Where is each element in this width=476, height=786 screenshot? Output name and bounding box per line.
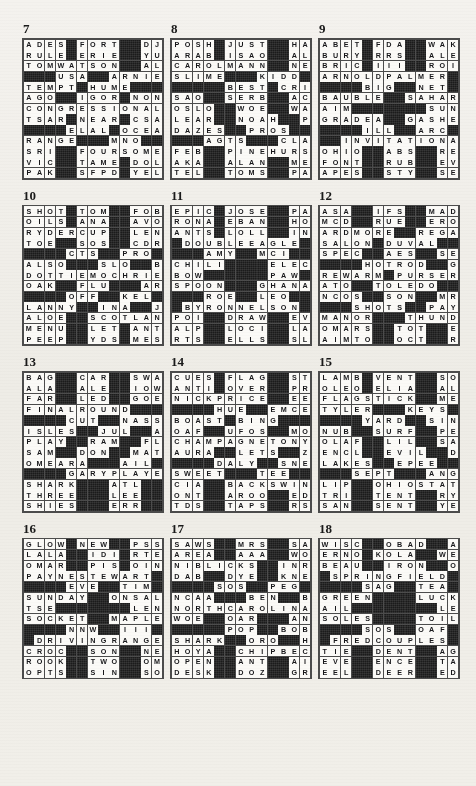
letter-cell: C	[246, 394, 256, 404]
letter-cell: M	[141, 582, 151, 592]
letter-cell: G	[268, 238, 278, 248]
letter-cell: D	[130, 157, 140, 167]
block-square	[426, 157, 436, 167]
letter-cell: O	[362, 334, 372, 344]
block-square	[362, 281, 372, 291]
letter-cell: O	[34, 61, 44, 71]
letter-cell: P	[182, 206, 192, 216]
letter-cell: E	[56, 313, 66, 323]
block-square	[225, 72, 235, 82]
block-square	[214, 334, 224, 344]
puzzle-9: 9ABETFDAWAKBURYRRSALEBRICIIIROIARNOLDPAL…	[318, 22, 454, 180]
letter-cell: V	[330, 657, 340, 667]
letter-cell: O	[246, 104, 256, 114]
letter-cell: N	[45, 104, 55, 114]
letter-cell: E	[362, 114, 372, 124]
letter-cell: S	[330, 206, 340, 216]
letter-cell: E	[352, 405, 362, 415]
letter-cell: A	[34, 281, 44, 291]
letter-cell: E	[289, 313, 299, 323]
letter-cell: E	[246, 238, 256, 248]
letter-cell: D	[289, 72, 299, 82]
letter-cell: P	[246, 625, 256, 635]
letter-cell: H	[330, 146, 340, 156]
letter-cell: T	[384, 136, 394, 146]
block-square	[77, 136, 87, 146]
block-square	[373, 405, 383, 415]
letter-cell: M	[152, 657, 162, 667]
letter-cell: B	[257, 93, 267, 103]
block-square	[172, 82, 182, 92]
letter-cell: C	[109, 270, 119, 280]
letter-cell: Z	[300, 447, 310, 457]
letter-cell: R	[257, 125, 267, 135]
letter-cell: S	[416, 480, 426, 490]
letter-cell: O	[236, 228, 246, 238]
block-square	[109, 603, 119, 613]
letter-cell: S	[320, 249, 330, 259]
letter-cell: A	[437, 480, 447, 490]
block-square	[394, 93, 404, 103]
letter-cell: L	[172, 114, 182, 124]
letter-cell: C	[24, 646, 34, 656]
letter-cell: Y	[236, 571, 246, 581]
letter-cell: H	[268, 281, 278, 291]
crossword-grid: ASAIFSMADMCDRUEEROARDMOREREGASALONDUVALS…	[318, 205, 460, 347]
block-square	[214, 93, 224, 103]
letter-cell: E	[66, 125, 76, 135]
block-square	[426, 334, 436, 344]
letter-cell: A	[56, 458, 66, 468]
letter-cell: T	[437, 82, 447, 92]
letter-cell: S	[320, 614, 330, 624]
block-square	[66, 206, 76, 216]
block-square	[352, 603, 362, 613]
block-square	[130, 61, 140, 71]
letter-cell: P	[98, 168, 108, 178]
block-square	[289, 415, 299, 425]
block-square	[268, 217, 278, 227]
block-square	[45, 582, 55, 592]
letter-cell: I	[98, 667, 108, 677]
block-square	[204, 93, 214, 103]
letter-cell: D	[437, 571, 447, 581]
letter-cell: U	[98, 405, 108, 415]
block-square	[278, 501, 288, 511]
letter-cell: L	[384, 383, 394, 393]
letter-cell: U	[405, 270, 415, 280]
letter-cell: O	[352, 238, 362, 248]
letter-cell: S	[56, 667, 66, 677]
letter-cell: L	[236, 447, 246, 457]
puzzle-18: 18WISCOBADAERNOKOLAWEBEAUIRONOSPRINGFIEL…	[318, 522, 454, 680]
block-square	[45, 292, 55, 302]
letter-cell: W	[141, 373, 151, 383]
block-square	[214, 50, 224, 60]
block-square	[362, 61, 372, 71]
letter-cell: S	[437, 635, 447, 645]
letter-cell: G	[268, 415, 278, 425]
block-square	[109, 394, 119, 404]
letter-cell: A	[426, 469, 436, 479]
block-square	[437, 324, 447, 334]
block-square	[24, 415, 34, 425]
block-square	[225, 646, 235, 656]
block-square	[109, 373, 119, 383]
block-square	[373, 146, 383, 156]
letter-cell: E	[300, 458, 310, 468]
block-square	[300, 125, 310, 135]
block-square	[66, 157, 76, 167]
block-square	[416, 302, 426, 312]
letter-cell: L	[437, 603, 447, 613]
letter-cell: E	[257, 206, 267, 216]
letter-cell: A	[109, 72, 119, 82]
letter-cell: S	[88, 667, 98, 677]
block-square	[268, 571, 278, 581]
block-square	[66, 657, 76, 667]
letter-cell: B	[193, 561, 203, 571]
letter-cell: L	[152, 61, 162, 71]
letter-cell: R	[172, 334, 182, 344]
letter-cell: D	[362, 635, 372, 645]
block-square	[130, 260, 140, 270]
letter-cell: V	[24, 157, 34, 167]
letter-cell: E	[448, 324, 458, 334]
letter-cell: L	[330, 394, 340, 404]
